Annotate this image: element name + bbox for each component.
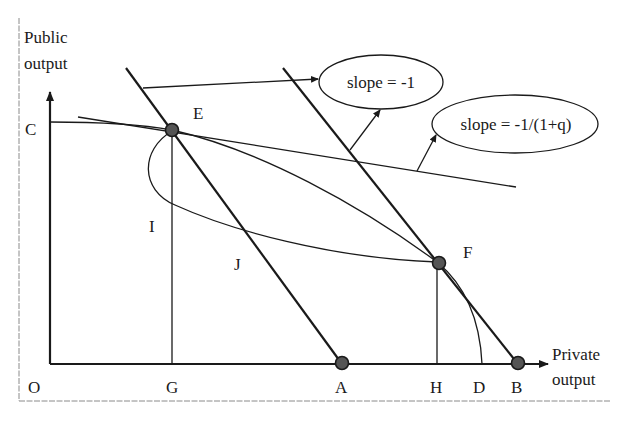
- label-J: J: [234, 255, 241, 274]
- label-G: G: [166, 378, 178, 397]
- callout-arrow-2: [350, 110, 380, 150]
- loop-curve: [148, 131, 437, 262]
- x-axis-label-line2: output: [552, 370, 596, 389]
- label-F: F: [463, 243, 472, 262]
- label-D: D: [473, 378, 485, 397]
- point-A-dot: [336, 357, 349, 370]
- ppf-curve: [50, 122, 482, 364]
- x-axis-label-line1: Private: [552, 345, 600, 364]
- point-E-dot: [166, 124, 179, 137]
- label-H: H: [430, 378, 442, 397]
- callout-arrow-3: [417, 135, 436, 171]
- label-I: I: [149, 217, 155, 236]
- label-E: E: [193, 104, 203, 123]
- label-B: B: [511, 378, 522, 397]
- y-axis-label-line1: Public: [24, 28, 68, 47]
- callout-arrow-1: [143, 79, 318, 88]
- line-slope-minus-one-FB: [283, 68, 518, 364]
- point-F-dot: [433, 257, 446, 270]
- point-B-dot: [512, 357, 525, 370]
- line-slope-minus-one-EA: [126, 68, 342, 364]
- label-A: A: [335, 378, 348, 397]
- y-axis-label-line2: output: [24, 54, 68, 73]
- label-C: C: [25, 120, 36, 139]
- callout-slope-minus-one-label: slope = -1: [347, 73, 415, 92]
- label-O: O: [28, 378, 40, 397]
- callout-slope-q-label: slope = -1/(1+q): [461, 115, 572, 134]
- production-possibility-diagram: slope = -1 slope = -1/(1+q) Public outpu…: [0, 0, 630, 422]
